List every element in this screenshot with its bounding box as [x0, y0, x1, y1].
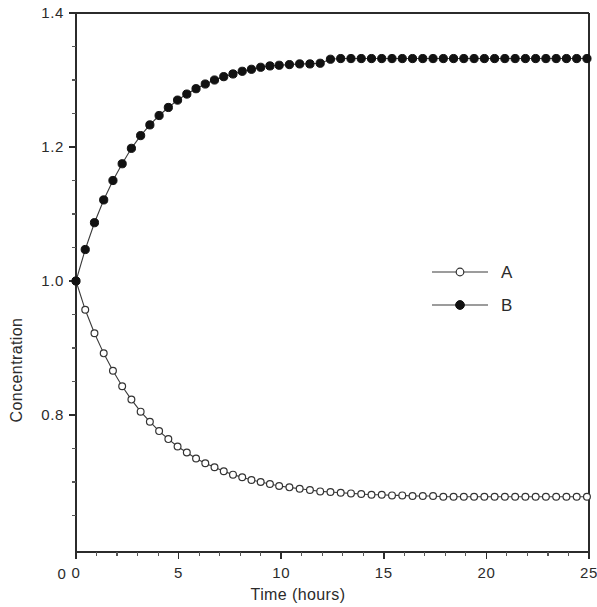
data-point-a	[430, 493, 437, 500]
data-point-b	[72, 277, 80, 285]
data-point-b	[460, 54, 468, 62]
data-point-b	[247, 65, 255, 73]
data-point-b	[347, 54, 355, 62]
data-point-a	[512, 493, 519, 500]
data-point-b	[173, 96, 181, 104]
x-tick-label: 25	[580, 564, 597, 581]
data-point-b	[521, 54, 529, 62]
data-point-b	[306, 60, 314, 68]
data-point-a	[128, 396, 135, 403]
data-point-b	[296, 60, 304, 68]
data-point-a	[409, 493, 416, 500]
data-point-a	[573, 493, 580, 500]
data-point-b	[201, 80, 209, 88]
x-tick-label: 5	[174, 564, 183, 581]
data-point-a	[267, 481, 274, 488]
data-point-a	[491, 493, 498, 500]
data-point-a	[358, 491, 365, 498]
data-point-a	[471, 493, 478, 500]
data-point-a	[501, 493, 508, 500]
data-point-a	[110, 367, 117, 374]
data-point-a	[389, 492, 396, 499]
y-tick-label: 1.4	[41, 4, 64, 21]
data-point-a	[202, 460, 209, 467]
legend-label-b: B	[501, 296, 512, 315]
y-tick-label: 1.2	[41, 138, 64, 155]
data-point-a	[368, 491, 375, 498]
data-point-a	[481, 493, 488, 500]
data-point-b	[164, 103, 172, 111]
data-point-a	[211, 464, 218, 471]
data-point-a	[553, 493, 560, 500]
data-point-a	[317, 488, 324, 495]
y-axis-zero-label: 0	[58, 565, 67, 582]
data-point-b	[275, 61, 283, 69]
data-point-b	[470, 54, 478, 62]
data-point-b	[532, 54, 540, 62]
data-point-a	[522, 493, 529, 500]
data-point-a	[419, 493, 426, 500]
data-point-a	[137, 408, 144, 415]
data-point-b	[316, 59, 324, 67]
data-point-b	[220, 73, 228, 81]
data-point-b	[419, 54, 427, 62]
data-point-a	[584, 493, 591, 500]
data-point-b	[501, 54, 509, 62]
data-point-a	[82, 306, 89, 313]
data-point-b	[398, 54, 406, 62]
legend-label-a: A	[501, 263, 513, 282]
data-point-b	[449, 54, 457, 62]
y-tick-label: 0.8	[41, 406, 64, 423]
data-point-a	[307, 487, 314, 494]
x-tick-label: 20	[477, 564, 495, 581]
legend-marker-a	[456, 268, 464, 276]
data-point-b	[100, 196, 108, 204]
data-point-a	[156, 428, 163, 435]
data-point-b	[90, 219, 98, 227]
data-point-b	[285, 60, 293, 68]
data-point-a	[378, 491, 385, 498]
data-point-b	[146, 121, 154, 129]
data-point-a	[399, 492, 406, 499]
data-point-b	[109, 176, 117, 184]
data-point-b	[337, 54, 345, 62]
data-point-b	[573, 54, 581, 62]
data-point-a	[450, 493, 457, 500]
data-point-b	[367, 54, 375, 62]
data-point-a	[460, 493, 467, 500]
data-point-a	[230, 471, 237, 478]
data-point-a	[220, 468, 227, 475]
data-point-b	[155, 111, 163, 119]
data-point-b	[583, 54, 591, 62]
data-point-a	[532, 493, 539, 500]
data-point-b	[429, 54, 437, 62]
x-axis-title: Time (hours)	[251, 586, 346, 603]
data-point-a	[165, 436, 172, 443]
data-point-a	[91, 330, 98, 337]
data-point-a	[248, 477, 255, 484]
data-point-b	[562, 54, 570, 62]
data-point-b	[192, 85, 200, 93]
data-point-a	[348, 490, 355, 497]
data-point-a	[563, 493, 570, 500]
data-point-b	[552, 54, 560, 62]
data-point-b	[388, 54, 396, 62]
data-point-a	[100, 350, 107, 357]
data-point-b	[480, 54, 488, 62]
data-point-a	[257, 479, 264, 486]
data-point-b	[238, 67, 246, 75]
data-point-b	[127, 144, 135, 152]
data-point-a	[296, 485, 303, 492]
data-point-b	[183, 90, 191, 98]
legend-marker-b	[456, 301, 465, 310]
data-point-b	[326, 55, 334, 63]
concentration-vs-time-chart: 0510152025 0.81.01.21.4 AB Time (hours) …	[0, 0, 597, 607]
data-point-b	[229, 70, 237, 78]
data-point-b	[378, 54, 386, 62]
data-point-a	[174, 443, 181, 450]
data-point-a	[276, 483, 283, 490]
y-axis-title: Concentration	[8, 318, 25, 423]
data-point-b	[408, 54, 416, 62]
x-tick-label: 15	[375, 564, 393, 581]
x-tick-label: 10	[272, 564, 290, 581]
